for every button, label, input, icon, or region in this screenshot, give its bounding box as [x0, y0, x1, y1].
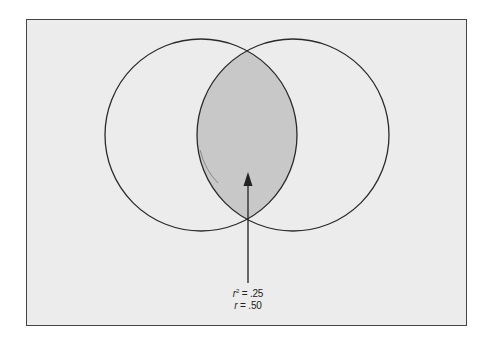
overlap-region	[197, 39, 389, 231]
r-symbol: r	[234, 300, 237, 311]
r-squared-value: = .25	[242, 288, 264, 299]
r-label: r = .50	[198, 300, 298, 311]
r-squared-label: r2 = .25	[198, 288, 298, 299]
r-value: = .50	[240, 300, 262, 311]
r-squared-exp: 2	[236, 288, 239, 294]
